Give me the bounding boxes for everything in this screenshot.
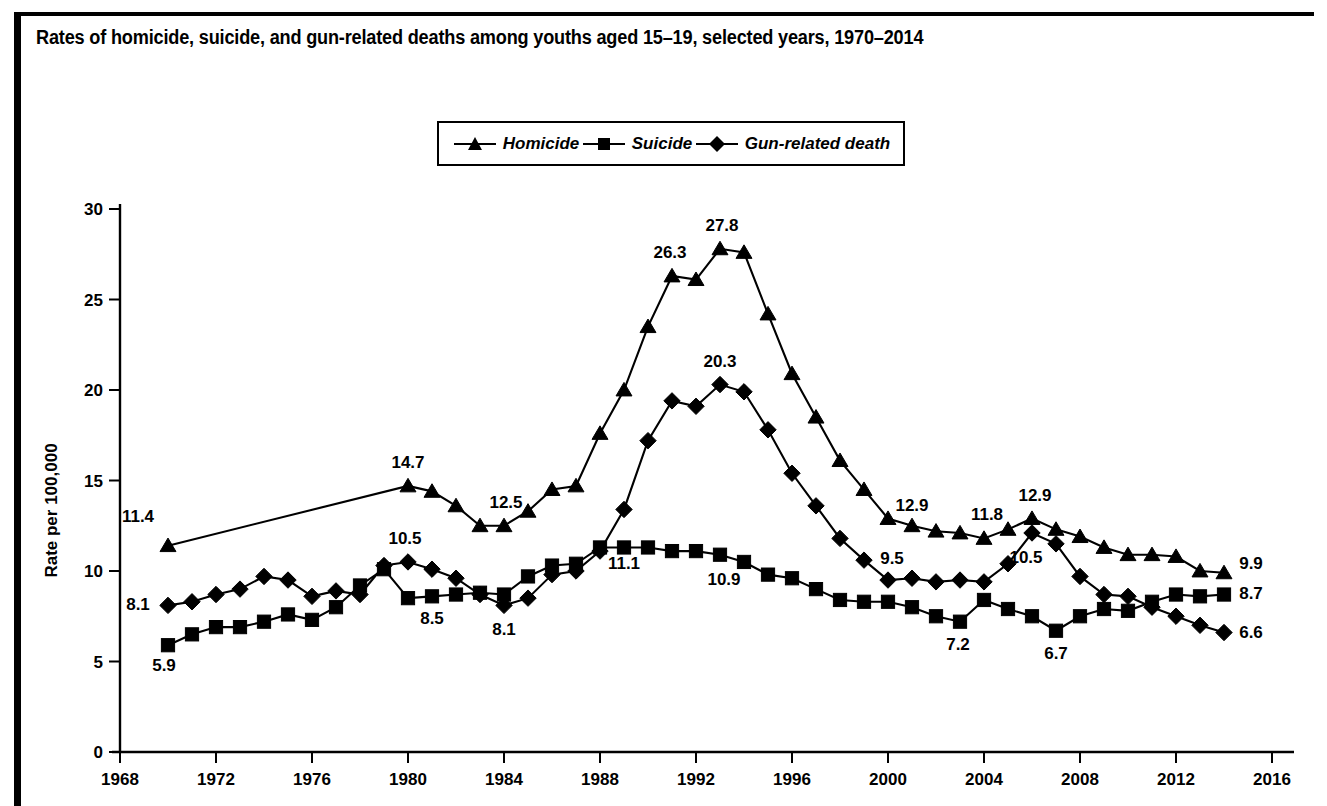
axis-titles: Rate per 100,000	[42, 443, 61, 577]
data-point	[329, 601, 342, 614]
data-point	[808, 410, 824, 424]
data-point	[761, 568, 774, 581]
data-point	[760, 306, 776, 320]
data-point	[1048, 522, 1064, 536]
data-point	[616, 382, 632, 396]
data-point	[712, 241, 728, 255]
data-point-label: 7.2	[946, 635, 970, 654]
data-point	[664, 393, 680, 409]
data-point	[184, 594, 200, 610]
data-point	[1048, 536, 1064, 552]
data-point	[1001, 602, 1014, 615]
x-tick-label: 1984	[485, 770, 523, 789]
data-point-label: 26.3	[653, 243, 686, 262]
data-point	[521, 570, 534, 583]
data-point	[1096, 586, 1112, 602]
data-point-label: 27.8	[705, 216, 738, 235]
data-point-label: 6.7	[1044, 644, 1068, 663]
x-tick-label: 1992	[677, 770, 715, 789]
data-point	[232, 581, 248, 597]
x-tick-label: 1988	[581, 770, 619, 789]
data-point	[256, 568, 272, 584]
x-tick-label: 2000	[869, 770, 907, 789]
data-point	[760, 422, 776, 438]
y-tick-label: 0	[94, 743, 103, 762]
data-point-label: 6.6	[1239, 623, 1263, 642]
data-point	[1169, 588, 1182, 601]
x-tick-label: 2012	[1157, 770, 1195, 789]
x-tick-label: 1968	[101, 770, 139, 789]
data-point-label: 8.1	[126, 595, 150, 614]
data-point	[953, 615, 966, 628]
data-point	[784, 465, 800, 481]
data-point	[976, 574, 992, 590]
data-point	[616, 501, 632, 517]
data-point	[1025, 610, 1038, 623]
data-point-label: 12.5	[489, 493, 522, 512]
x-tick-label: 2016	[1253, 770, 1291, 789]
data-point-label: 11.8	[971, 505, 1003, 524]
data-point	[449, 588, 462, 601]
data-point	[952, 572, 968, 588]
data-point-label: 12.9	[895, 496, 928, 515]
x-tick-label: 2008	[1061, 770, 1099, 789]
data-point	[904, 570, 920, 586]
data-point	[1193, 590, 1206, 603]
data-point	[448, 498, 464, 512]
data-point	[1097, 602, 1110, 615]
data-point	[1024, 511, 1040, 525]
data-point-label: 11.4	[122, 507, 155, 526]
figure-panel: Rates of homicide, suicide, and gun-rela…	[0, 0, 1327, 806]
data-point	[161, 639, 174, 652]
data-point	[977, 593, 990, 606]
data-point	[1096, 540, 1112, 554]
series-suicide	[161, 541, 1230, 652]
data-point	[185, 628, 198, 641]
data-point	[425, 590, 438, 603]
data-point-label: 20.3	[703, 352, 736, 371]
x-tick-label: 1976	[293, 770, 331, 789]
data-point	[1072, 568, 1088, 584]
data-point	[737, 555, 750, 568]
data-point	[592, 426, 608, 440]
x-tick-label: 2004	[965, 770, 1003, 789]
x-axis: 1968197219761980198419881992199620002004…	[101, 752, 1294, 789]
data-point	[568, 478, 584, 492]
line-chart: 051015202530 196819721976198019841988199…	[0, 0, 1327, 806]
y-tick-label: 15	[84, 472, 103, 491]
data-point	[928, 574, 944, 590]
data-point	[784, 366, 800, 380]
data-point	[208, 586, 224, 602]
data-point-label: 10.5	[1009, 548, 1042, 567]
data-point	[160, 597, 176, 613]
data-point	[1216, 624, 1232, 640]
data-point	[617, 541, 630, 554]
x-tick-label: 1980	[389, 770, 427, 789]
data-point	[257, 615, 270, 628]
data-point	[689, 544, 702, 557]
data-point-label: 9.5	[880, 549, 904, 568]
data-point	[857, 595, 870, 608]
data-point-label: 12.9	[1018, 486, 1051, 505]
y-tick-label: 20	[84, 381, 103, 400]
series-layer	[160, 241, 1232, 652]
data-point	[1120, 588, 1136, 604]
data-point	[833, 593, 846, 606]
data-point	[233, 621, 246, 634]
data-point	[1192, 563, 1208, 577]
data-point	[1049, 624, 1062, 637]
y-tick-label: 5	[94, 653, 103, 672]
data-point-label: 14.7	[391, 453, 424, 472]
data-point-label: 8.1	[492, 620, 516, 639]
data-point-label: 8.7	[1239, 584, 1263, 603]
data-point	[305, 613, 318, 626]
data-point	[1192, 617, 1208, 633]
data-point	[1073, 610, 1086, 623]
data-point	[664, 268, 680, 282]
data-point	[304, 588, 320, 604]
data-point	[448, 570, 464, 586]
data-point-label: 10.5	[388, 529, 421, 548]
data-point	[640, 319, 656, 333]
data-point	[665, 544, 678, 557]
y-tick-label: 25	[84, 291, 103, 310]
